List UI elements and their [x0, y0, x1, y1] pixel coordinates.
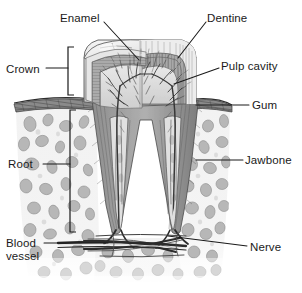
label-gum: Gum	[252, 99, 277, 112]
label-blood-vessel: Blood vessel	[6, 237, 39, 262]
label-enamel: Enamel	[60, 12, 100, 25]
crown-bracket	[68, 47, 74, 95]
label-crown: Crown	[6, 63, 40, 76]
tooth	[84, 40, 202, 234]
tooth-anatomy-diagram: Enamel Dentine Pulp cavity Crown Gum Jaw…	[0, 0, 302, 293]
crown-cutaway	[139, 40, 196, 104]
label-jawbone: Jawbone	[245, 154, 292, 167]
jawbone-region	[0, 108, 302, 293]
label-root: Root	[8, 158, 33, 171]
label-pulp-cavity: Pulp cavity	[221, 60, 278, 73]
label-nerve: Nerve	[250, 241, 281, 254]
label-dentine: Dentine	[207, 12, 247, 25]
